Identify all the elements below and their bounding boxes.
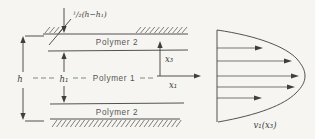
top-wall-hatching-left [45,27,64,33]
top-wall-hatching-right [136,27,187,33]
x1-axis-arrowhead [194,73,201,78]
bottom-wall-hatching [52,120,181,127]
velocity-arrowheads [254,45,299,100]
h-dimension [23,36,44,121]
polymer-flow-diagram: h h₁ ¹/₂(h−h₁) Polymer 2 Polymer 1 Polym… [0,0,315,139]
h1-arrowhead-up [61,52,66,59]
velocity-arrowhead-1 [255,45,263,50]
gap-dimension-label: ¹/₂(h−h₁) [73,10,107,19]
velocity-profile-label: v₁(x₃) [253,120,276,130]
h1-label: h₁ [60,74,69,84]
polymer2-top-label: Polymer 2 [96,38,138,47]
h-arrowhead-up [20,36,25,43]
velocity-arrowhead-3 [291,73,299,78]
polymer1-label: Polymer 1 [93,74,135,83]
x1-axis-label: x₁ [169,80,177,90]
gap-leader-line [49,19,71,45]
h-label: h [17,74,22,84]
x3-axis-label: x₃ [165,54,174,64]
top-interface-line [48,50,188,51]
bottom-interface-line [50,103,184,104]
h-arrowhead-down [20,113,25,120]
figure-stage: h h₁ ¹/₂(h−h₁) Polymer 2 Polymer 1 Polym… [0,0,315,139]
gap-annotation [49,8,71,45]
coordinate-axes [157,47,195,76]
velocity-arrowhead-2 [284,58,292,63]
h1-arrowhead-down [61,96,66,103]
velocity-arrowhead-4 [287,84,295,89]
velocity-arrowhead-5 [254,95,262,100]
x3-axis-arrowhead [157,41,162,48]
polymer2-bottom-label: Polymer 2 [96,108,138,117]
